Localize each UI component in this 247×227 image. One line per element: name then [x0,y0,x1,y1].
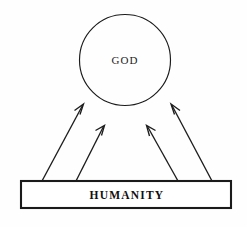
arrow-humanity-to-god-1 [42,104,84,181]
arrow-3-shaft [148,127,179,182]
arrow-4-shaft [172,106,212,182]
arrow-1-shaft [42,106,83,182]
arrow-humanity-to-god-2 [76,126,105,182]
humanity-label: HUMANITY [90,189,165,201]
arrow-humanity-to-god-4 [171,104,212,181]
god-label: GOD [111,54,138,66]
arrow-2-shaft [76,127,104,182]
arrow-humanity-to-god-3 [147,126,179,182]
diagram-svg: GOD HUMANITY [0,0,247,227]
diagram-canvas: GOD HUMANITY [0,0,247,227]
